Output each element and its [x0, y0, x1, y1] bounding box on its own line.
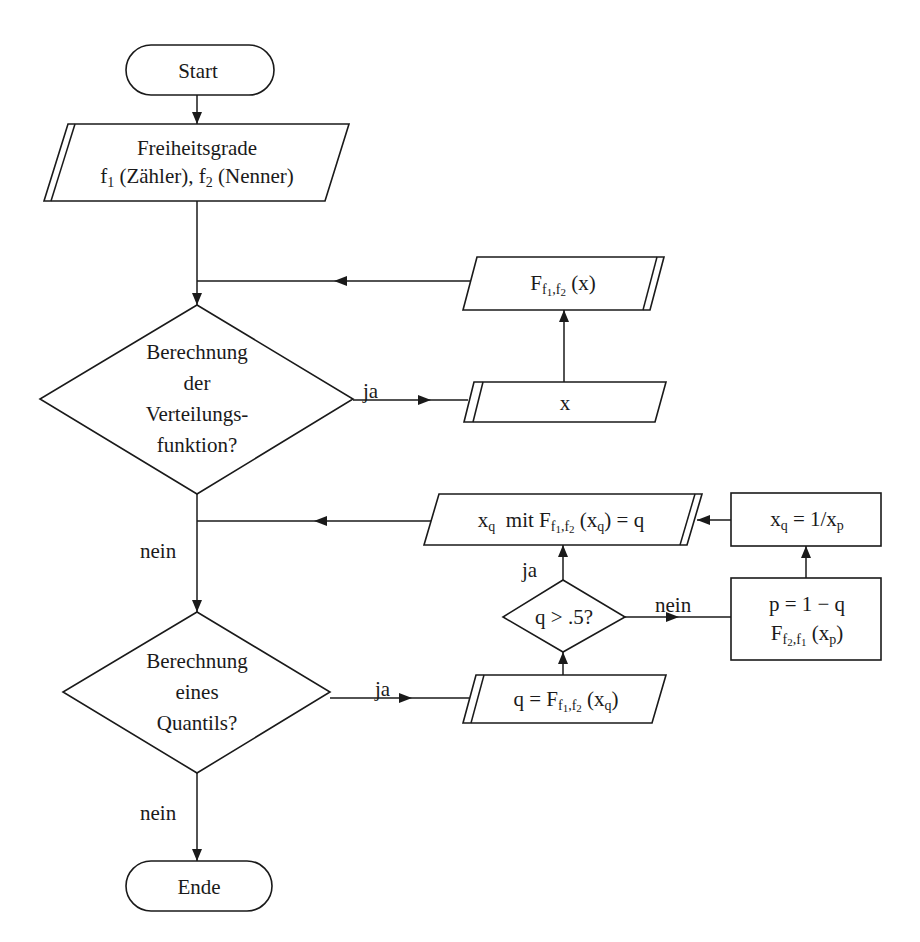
arrow-up-icon	[558, 545, 568, 557]
input-degrees-title: Freiheitsgrade	[100, 134, 294, 162]
process-p-line2: Ff2,f1 (xp)	[769, 619, 845, 648]
arrow-down-icon	[192, 112, 202, 124]
decision-half-label: q > .5?	[535, 604, 593, 630]
arrow-down-icon	[192, 849, 202, 861]
edge-label-half-no: nein	[655, 592, 691, 618]
edge-label-quantile-no: nein	[140, 800, 176, 826]
arrow-down-icon	[192, 293, 202, 305]
output-cdf-label: Ff1,f2 (x)	[530, 270, 595, 296]
arrow-left-icon	[697, 515, 710, 525]
end-label: Ende	[177, 874, 220, 900]
arrow-down-icon	[192, 600, 202, 612]
arrow-right-icon	[418, 395, 431, 405]
start-label: Start	[178, 58, 218, 84]
arrow-up-icon	[559, 310, 569, 322]
edge-label-cdf-no: nein	[140, 538, 176, 564]
input-x-label: x	[560, 390, 571, 416]
input-degrees-vars: f1 (Zähler), f2 (Nenner)	[100, 162, 294, 190]
output-quantile-label: xq mit Ff1,f2 (xq) = q	[478, 507, 644, 533]
flowchart-canvas: Start Freiheitsgrade f1 (Zähler), f2 (Ne…	[0, 0, 920, 942]
process-invert-label: xq = 1/xp	[770, 506, 844, 532]
arrow-left-icon	[334, 276, 347, 286]
edge-label-quantile-yes: ja	[375, 676, 390, 702]
edge-label-cdf-yes: ja	[363, 378, 378, 404]
decision-quantile-label: Berechnung eines Quantils?	[146, 646, 247, 739]
decision-cdf-label: Berechnung der Verteilungs- funktion?	[146, 337, 249, 461]
arrow-right-icon	[399, 693, 412, 703]
edge-label-half-yes: ja	[522, 557, 537, 583]
process-p-label: p = 1 − q Ff2,f1 (xp)	[769, 590, 845, 648]
input-q-label: q = Ff1,f2 (xq)	[513, 686, 618, 712]
arrow-up-icon	[801, 546, 811, 558]
arrow-up-icon	[558, 652, 568, 664]
input-degrees-label: Freiheitsgrade f1 (Zähler), f2 (Nenner)	[100, 134, 294, 190]
process-p-line1: p = 1 − q	[769, 590, 845, 619]
arrow-left-icon	[314, 516, 327, 526]
